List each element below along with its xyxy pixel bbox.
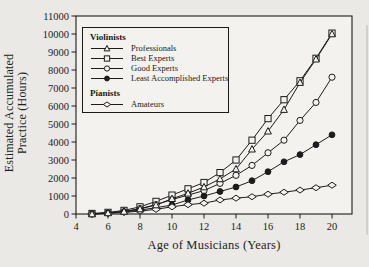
circle-open-legend-icon: [90, 64, 124, 73]
x-axis-ticks: 468101214161820: [73, 214, 337, 232]
x-tick-label: 14: [231, 221, 242, 232]
legend-item-label: Good Experts: [131, 63, 178, 73]
y-tick-label: 9000: [48, 47, 69, 58]
y-axis-label: Estimated Accumulated Practice (Hours): [3, 3, 31, 223]
legend: ViolinistsProfessionalsBest ExpertsGood …: [82, 27, 229, 113]
x-tick-label: 10: [167, 221, 178, 232]
y-tick-label: 0: [64, 209, 69, 220]
y-tick-label: 10000: [43, 29, 69, 40]
x-tick-label: 6: [105, 221, 110, 232]
triangle-open-legend-icon: [90, 44, 124, 53]
x-tick-label: 18: [295, 221, 306, 232]
x-tick-label: 20: [327, 221, 338, 232]
diamond-open-legend-icon: [90, 100, 124, 109]
y-tick-label: 2000: [48, 173, 69, 184]
x-tick-label: 4: [73, 221, 79, 232]
legend-item-label: Least Accomplished Experts: [131, 73, 228, 83]
legend-group-title: Violinists: [90, 32, 228, 42]
y-tick-label: 11000: [43, 11, 69, 22]
y-tick-label: 4000: [48, 137, 69, 148]
legend-item-amateurs: Amateurs: [90, 99, 228, 109]
y-axis-label-line2: Practice (Hours): [16, 3, 29, 223]
y-tick-label: 5000: [48, 119, 69, 130]
y-axis-ticks: 0100020003000400050006000700080009000100…: [43, 11, 76, 220]
legend-item-least-accomplished-experts: Least Accomplished Experts: [90, 73, 228, 83]
y-tick-label: 8000: [48, 65, 69, 76]
circle-filled-legend-icon: [90, 74, 124, 83]
x-axis-label: Age of Musicians (Years): [76, 238, 352, 253]
legend-item-professionals: Professionals: [90, 43, 228, 53]
x-tick-label: 16: [263, 221, 274, 232]
y-tick-label: 7000: [48, 83, 69, 94]
square-open-legend-icon: [90, 54, 124, 63]
practice-chart-figure: 0100020003000400050006000700080009000100…: [0, 0, 369, 267]
x-tick-label: 12: [199, 221, 210, 232]
legend-item-label: Amateurs: [131, 99, 164, 109]
legend-item-good-experts: Good Experts: [90, 63, 228, 73]
legend-item-label: Best Experts: [131, 53, 174, 63]
legend-group-title: Pianists: [90, 88, 228, 98]
legend-item-best-experts: Best Experts: [90, 53, 228, 63]
scan-edge-artifact: [366, 25, 368, 235]
y-tick-label: 6000: [48, 101, 69, 112]
x-tick-label: 8: [137, 221, 142, 232]
legend-item-label: Professionals: [131, 43, 176, 53]
legend-group-pianists: PianistsAmateurs: [90, 88, 228, 109]
legend-group-violinists: ViolinistsProfessionalsBest ExpertsGood …: [90, 32, 228, 83]
y-tick-label: 1000: [48, 191, 69, 202]
y-tick-label: 3000: [48, 155, 69, 166]
